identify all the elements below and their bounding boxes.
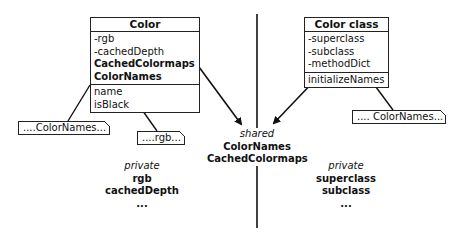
private-instance-variables-label: private rgb cachedDepth ... bbox=[92, 160, 192, 210]
private-class-variables-label: private superclass subclass ... bbox=[296, 160, 396, 210]
private-left-item-ellipsis: ... bbox=[92, 198, 192, 211]
private-left-item-rgb: rgb bbox=[92, 173, 192, 186]
method-is-black: isBlack bbox=[94, 99, 196, 112]
note-name-method: ....ColorNames... bbox=[18, 121, 110, 135]
private-right-item-ellipsis: ... bbox=[296, 198, 396, 211]
shared-header: shared bbox=[207, 128, 307, 141]
attribute-color-names: ColorNames bbox=[94, 71, 196, 84]
method-initialize-names: initializeNames bbox=[308, 74, 385, 87]
attribute-method-dict: -methodDict bbox=[308, 58, 385, 71]
attribute-cached-colormaps: CachedColormaps bbox=[94, 58, 196, 71]
private-right-item-subclass: subclass bbox=[296, 185, 396, 198]
attribute-subclass: -subclass bbox=[308, 46, 385, 59]
color-box-methods: name isBlack bbox=[91, 84, 199, 112]
note-initialize-names-method: .... ColorNames... bbox=[352, 110, 446, 124]
attribute-superclass: -superclass bbox=[308, 33, 385, 46]
attribute-cached-depth: -cachedDepth bbox=[94, 46, 196, 59]
color-box-attributes: -rgb -cachedDepth CachedColormaps ColorN… bbox=[91, 32, 199, 84]
private-left-header: private bbox=[92, 160, 192, 173]
color-class-box-methods: initializeNames bbox=[305, 72, 388, 88]
private-right-header: private bbox=[296, 160, 396, 173]
color-box-title: Color bbox=[91, 18, 199, 32]
attribute-rgb: -rgb bbox=[94, 33, 196, 46]
color-class-box: Color -rgb -cachedDepth CachedColormaps … bbox=[90, 17, 200, 113]
color-metaclass-box: Color class -superclass -subclass -metho… bbox=[304, 17, 389, 88]
shared-variables-label: shared ColorNames CachedColormaps bbox=[207, 128, 307, 166]
shared-item-color-names: ColorNames bbox=[207, 141, 307, 154]
color-class-box-title: Color class bbox=[305, 18, 388, 32]
shared-item-cached-colormaps: CachedColormaps bbox=[207, 153, 307, 166]
note-isblack-method: ....rgb... bbox=[137, 131, 185, 145]
method-name: name bbox=[94, 86, 196, 99]
color-class-box-attributes: -superclass -subclass -methodDict bbox=[305, 32, 388, 72]
private-right-item-superclass: superclass bbox=[296, 173, 396, 186]
private-left-item-cached-depth: cachedDepth bbox=[92, 185, 192, 198]
